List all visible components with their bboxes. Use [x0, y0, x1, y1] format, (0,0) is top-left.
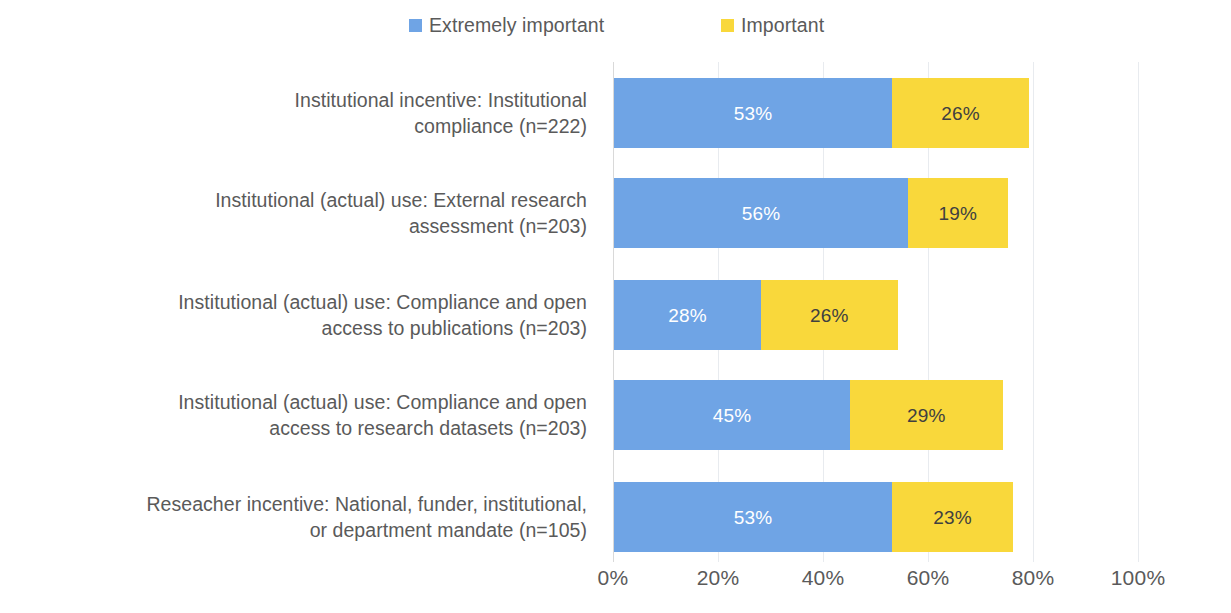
table-row: 45% 29% — [613, 380, 1138, 450]
legend-label: Important — [741, 14, 824, 37]
bar-value-label: 26% — [941, 104, 980, 123]
bar-value-label: 26% — [810, 306, 849, 325]
bar-rows: 53% 26% 56% 19% — [613, 62, 1138, 562]
category-label-line: compliance (n=222) — [7, 113, 587, 139]
bar-segment-extremely-important[interactable]: 53% — [614, 78, 892, 148]
bar-value-label: 53% — [734, 508, 773, 527]
x-axis-tick-label: 80% — [1012, 566, 1055, 590]
x-axis-tick-labels: 0%20%40%60%80%100% — [613, 566, 1138, 606]
chart-legend: Extremely important Important — [0, 12, 1231, 38]
bar-segment-extremely-important[interactable]: 56% — [614, 178, 908, 248]
category-label-line: Institutional (actual) use: External res… — [7, 187, 587, 213]
bar-value-label: 19% — [939, 204, 978, 223]
legend-swatch-icon — [721, 19, 734, 32]
category-label-line: Reseacher incentive: National, funder, i… — [7, 491, 587, 517]
legend-label: Extremely important — [429, 14, 604, 37]
category-label: Institutional (actual) use: External res… — [7, 187, 587, 239]
x-axis-tick-label: 40% — [802, 566, 845, 590]
legend-item-important[interactable]: Important — [721, 12, 824, 38]
category-label-line: or department mandate (n=105) — [7, 517, 587, 543]
category-label: Institutional (actual) use: Compliance a… — [7, 289, 587, 341]
table-row: 56% 19% — [613, 178, 1138, 248]
stacked-bar: 53% 26% — [614, 78, 1029, 148]
bar-value-label: 29% — [907, 406, 946, 425]
category-label-line: Institutional (actual) use: Compliance a… — [7, 389, 587, 415]
stacked-bar-chart: Extremely important Important Institutio… — [0, 0, 1231, 613]
bar-value-label: 45% — [713, 406, 752, 425]
legend-swatch-icon — [409, 19, 422, 32]
bar-value-label: 28% — [668, 306, 707, 325]
gridline — [1138, 62, 1139, 562]
bar-segment-important[interactable]: 26% — [892, 78, 1029, 148]
bar-segment-important[interactable]: 23% — [892, 482, 1013, 552]
category-label-line: access to research datasets (n=203) — [7, 415, 587, 441]
category-label-line: access to publications (n=203) — [7, 315, 587, 341]
bar-value-label: 56% — [742, 204, 781, 223]
x-axis-tick-label: 0% — [598, 566, 629, 590]
plot-area: 53% 26% 56% 19% — [613, 62, 1138, 562]
category-label: Reseacher incentive: National, funder, i… — [7, 491, 587, 543]
bar-segment-extremely-important[interactable]: 53% — [614, 482, 892, 552]
x-axis-tick-label: 60% — [907, 566, 950, 590]
x-axis-tick-label: 100% — [1111, 566, 1166, 590]
category-label: Institutional (actual) use: Compliance a… — [7, 389, 587, 441]
stacked-bar: 45% 29% — [614, 380, 1003, 450]
bar-segment-important[interactable]: 26% — [761, 280, 898, 350]
bar-value-label: 53% — [734, 104, 773, 123]
x-axis-tick-label: 20% — [697, 566, 740, 590]
bar-value-label: 23% — [933, 508, 972, 527]
legend-item-extremely-important[interactable]: Extremely important — [409, 12, 604, 38]
stacked-bar: 56% 19% — [614, 178, 1008, 248]
category-label: Institutional incentive: Institutional c… — [7, 87, 587, 139]
category-axis-labels: Institutional incentive: Institutional c… — [0, 62, 600, 562]
bar-segment-important[interactable]: 19% — [908, 178, 1008, 248]
stacked-bar: 53% 23% — [614, 482, 1013, 552]
stacked-bar: 28% 26% — [614, 280, 898, 350]
bar-segment-extremely-important[interactable]: 28% — [614, 280, 761, 350]
category-label-line: Institutional (actual) use: Compliance a… — [7, 289, 587, 315]
category-label-line: Institutional incentive: Institutional — [7, 87, 587, 113]
table-row: 53% 23% — [613, 482, 1138, 552]
bar-segment-important[interactable]: 29% — [850, 380, 1002, 450]
table-row: 28% 26% — [613, 280, 1138, 350]
category-label-line: assessment (n=203) — [7, 213, 587, 239]
bar-segment-extremely-important[interactable]: 45% — [614, 380, 850, 450]
table-row: 53% 26% — [613, 78, 1138, 148]
